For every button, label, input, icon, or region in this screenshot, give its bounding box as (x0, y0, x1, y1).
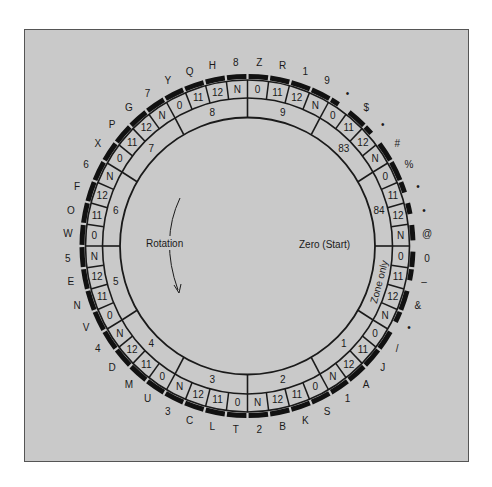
cell-row-label: 12 (357, 137, 369, 148)
cell-divider (91, 203, 107, 208)
character-label: R (279, 60, 286, 71)
code-bars (80, 74, 416, 418)
cell-row-label: N (382, 310, 389, 321)
punch-code-wheel: 01112N01112N01112N01112N01112N01112N0111… (0, 0, 492, 487)
character-label: M (125, 379, 133, 390)
character-label: T (233, 424, 239, 435)
zone-divider (358, 172, 373, 182)
code-bar (330, 98, 340, 107)
cell-divider (285, 86, 289, 103)
character-label: $ (363, 102, 369, 113)
cell-divider (186, 383, 193, 400)
code-bar (409, 225, 415, 241)
character-label: B (279, 421, 286, 432)
dividers (86, 80, 410, 412)
cell-divider (226, 393, 228, 411)
zone-label: 8 (209, 107, 215, 118)
character-label: E (68, 276, 75, 287)
cell-row-label: 11 (97, 291, 108, 302)
cell-row-label: N (116, 328, 123, 339)
character-label: • (407, 322, 411, 333)
character-label: U (144, 393, 151, 404)
character-label: S (324, 406, 331, 417)
cell-row-label: 12 (91, 271, 103, 282)
character-label: H (209, 60, 216, 71)
cell-row-label: 11 (292, 389, 303, 400)
cell-row-label: 12 (343, 359, 355, 370)
cell-divider (391, 265, 408, 267)
character-label: Q (186, 66, 194, 77)
cell-divider (91, 284, 107, 289)
character-label: • (422, 205, 426, 216)
cell-row-label: 11 (212, 394, 223, 405)
character-label: @ (422, 228, 432, 239)
cell-divider (167, 102, 176, 118)
cell-divider (186, 93, 193, 110)
code-bar (409, 251, 415, 267)
character-label: 8 (233, 57, 239, 68)
cell-row-label: 12 (387, 291, 399, 302)
character-label: A (363, 379, 370, 390)
cell-row-label: 11 (272, 87, 283, 98)
character-label: C (186, 415, 193, 426)
character-label: 7 (145, 88, 151, 99)
cell-row-label: 12 (272, 394, 284, 405)
cell-divider (381, 182, 397, 189)
zone-label: 1 (341, 338, 347, 349)
cell-divider (98, 182, 114, 189)
rotation-indicator: Rotation (140, 198, 202, 293)
character-label: O (67, 205, 75, 216)
character-label: V (83, 322, 90, 333)
zone-label: 2 (280, 374, 286, 385)
cell-row-label: N (254, 397, 261, 408)
cell-row-label: 12 (97, 190, 109, 201)
character-label: 1 (345, 393, 351, 404)
cell-row-label: N (312, 100, 319, 111)
cell-row-label: 0 (255, 84, 261, 95)
character-label: 6 (83, 159, 89, 170)
rotation-label: Rotation (146, 238, 183, 249)
cell-divider (381, 303, 397, 310)
cell-divider (320, 374, 329, 390)
character-label: Y (165, 75, 172, 86)
cell-row-label: 12 (127, 344, 139, 355)
character-label: & (415, 300, 422, 311)
character-label: 3 (165, 406, 171, 417)
cell-row-label: 0 (235, 397, 241, 408)
cell-row-label: N (329, 371, 336, 382)
cell-divider (388, 284, 404, 289)
cell-divider (87, 224, 104, 226)
cell-divider (167, 374, 176, 390)
character-label: 9 (324, 75, 330, 86)
cell-divider (320, 102, 329, 118)
cell-row-label: N (91, 251, 98, 262)
cell-divider (87, 265, 104, 267)
zone-divider (122, 310, 137, 320)
zero-start-label: Zero (Start) (299, 239, 350, 250)
zone-divider (175, 357, 184, 374)
zone-label: 9 (280, 107, 286, 118)
zone-divider (311, 357, 320, 374)
cell-labels: 01112N01112N01112N01112N01112N01112N0111… (91, 84, 405, 408)
character-label: • (416, 181, 420, 192)
cell-row-label: N (106, 171, 113, 182)
character-label: G (125, 102, 133, 113)
code-bar (364, 125, 374, 135)
character-label: 5 (65, 253, 71, 264)
zone-label: 5 (113, 276, 119, 287)
cell-row-label: 11 (393, 271, 404, 282)
cell-row-label: N (176, 381, 183, 392)
character-label: 0 (424, 253, 430, 264)
character-label: L (210, 421, 216, 432)
cell-divider (206, 389, 210, 406)
zone-label: 84 (374, 205, 386, 216)
character-label: X (94, 138, 101, 149)
cell-row-label: N (372, 153, 379, 164)
character-label: N (73, 300, 80, 311)
cell-row-label: 11 (388, 190, 399, 201)
cell-row-label: 0 (382, 171, 388, 182)
cell-row-label: 0 (372, 328, 378, 339)
cell-divider (266, 81, 268, 99)
character-label: – (421, 276, 427, 287)
cell-divider (226, 81, 228, 99)
